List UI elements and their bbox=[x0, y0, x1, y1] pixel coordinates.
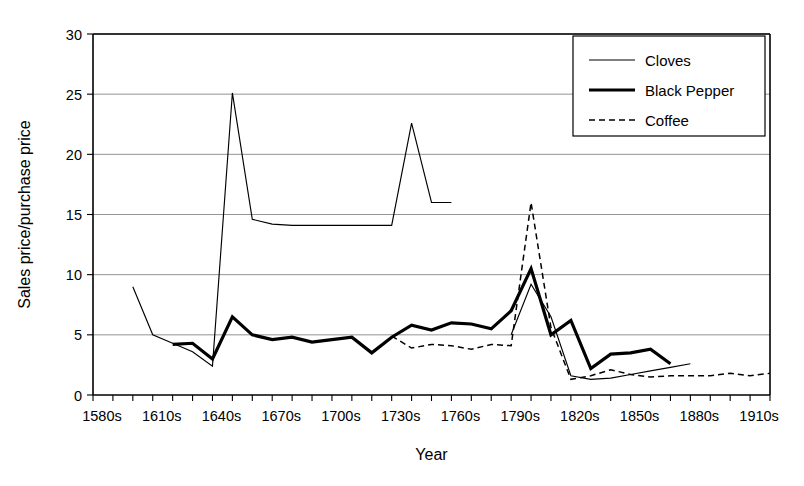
ytick-label-15: 15 bbox=[66, 207, 82, 223]
xtick-label-1850s: 1850s bbox=[620, 408, 660, 424]
xtick-label-1730s: 1730s bbox=[381, 408, 421, 424]
series-line-coffee bbox=[392, 202, 770, 379]
legend-label-cloves: Cloves bbox=[645, 52, 691, 69]
chart-container: 0510152025301580s1610s1640s1670s1700s173… bbox=[0, 0, 804, 486]
xtick-label-1790s: 1790s bbox=[500, 408, 540, 424]
series-line-black-pepper bbox=[173, 269, 671, 369]
xtick-label-1640s: 1640s bbox=[202, 408, 242, 424]
x-axis-title: Year bbox=[415, 446, 448, 463]
ytick-label-20: 20 bbox=[66, 147, 82, 163]
legend-label-black-pepper: Black Pepper bbox=[645, 82, 734, 99]
xtick-label-1670s: 1670s bbox=[261, 408, 301, 424]
xtick-label-1700s: 1700s bbox=[321, 408, 361, 424]
xtick-label-1760s: 1760s bbox=[441, 408, 481, 424]
ytick-label-25: 25 bbox=[66, 87, 82, 103]
series-line-cloves bbox=[133, 93, 452, 366]
line-chart: 0510152025301580s1610s1640s1670s1700s173… bbox=[0, 0, 804, 486]
legend-label-coffee: Coffee bbox=[645, 112, 689, 129]
ytick-label-0: 0 bbox=[74, 388, 82, 404]
xtick-label-1820s: 1820s bbox=[560, 408, 600, 424]
xtick-label-1580s: 1580s bbox=[82, 408, 122, 424]
xtick-label-1910s: 1910s bbox=[739, 408, 779, 424]
ytick-label-5: 5 bbox=[74, 327, 82, 343]
ytick-label-10: 10 bbox=[66, 267, 82, 283]
xtick-label-1610s: 1610s bbox=[142, 408, 182, 424]
xtick-label-1880s: 1880s bbox=[680, 408, 720, 424]
y-axis-title: Sales price/purchase price bbox=[16, 120, 33, 309]
series-line-cloves-later bbox=[511, 284, 690, 379]
ytick-label-30: 30 bbox=[66, 27, 82, 43]
